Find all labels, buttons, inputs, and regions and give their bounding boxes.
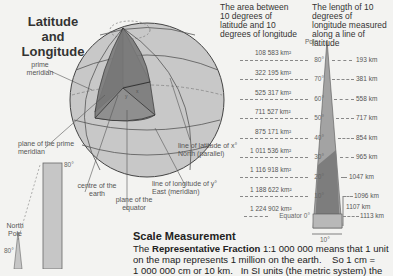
area-0: 1 224 902 km² [250,205,292,212]
scale-paragraph: The Representative Fraction 1:1 000 000 … [133,243,393,276]
length-column-header: The length of 10 degrees of longitude me… [312,3,388,48]
length-40: 854 km [356,134,377,141]
label-prime-meridian: prime meridian [20,61,60,77]
rdash-80 [332,60,352,61]
mini-north-pole: North Pole [4,222,26,238]
label-x: x [136,87,139,95]
label-line-of-latitude: line of latitude of x° North (parallel) [178,142,244,158]
rdash-0 [343,216,359,217]
rdash-70 [332,79,354,80]
scale-rf-term: Representative Fraction [152,243,260,254]
label-y: y [125,92,128,100]
dash-70 [240,79,308,80]
length-80: 193 km [356,56,377,63]
dash-30 [240,157,308,158]
length-50: 717 km [356,114,377,121]
scale-line3: 1 000 000 cm or 10 km. In SI units (the … [133,265,393,276]
area-20: 1 116 918 km² [250,166,291,173]
length-20: 1047 km [349,173,374,180]
scale-heading: Scale Measurement [133,230,236,242]
scale-line1: The Representative Fraction 1:1 000 000 … [133,243,393,254]
area-50: 711 527 km² [255,108,291,115]
dash-40 [240,138,308,139]
scale-line1-rest: 1:1 000 000 means that 1 unit [260,243,388,254]
label-line-of-longitude: line of longitude of y° East (meridian) [152,180,232,196]
pole-label: Pole [305,38,318,45]
lat-equator: Equator 0° [262,212,310,219]
rdash-30 [340,157,354,158]
label-plane-of-equator: plane of the equator [112,196,156,212]
meridian-length: 1107 km [346,203,370,210]
rdash-60 [334,99,354,100]
globe-title-line1: Latitude and [18,14,88,44]
dash-60 [240,99,308,100]
dash-0 [244,216,268,217]
area-80: 108 583 km² [255,49,291,56]
area-10: 1 188 622 km² [250,186,292,193]
area-40: 875 171 km² [255,128,291,135]
rdash-50 [336,118,354,119]
dash-20 [240,177,308,178]
area-30: 1 011 536 km² [250,147,291,154]
label-plane-prime-meridian: plane of the prime meridian [18,140,76,156]
length-30: 965 km [356,153,377,160]
dash-50 [240,118,308,119]
globe-title-line2: Longitude [18,44,88,59]
rdash-20 [341,177,347,178]
length-70: 381 km [356,75,377,82]
area-column-header: The area between 10 degrees of latitude … [220,3,300,39]
dash-80 [240,60,308,61]
scale-prefix: The [133,243,152,254]
rdash-10 [343,196,353,197]
length-10: 1096 km [354,192,379,199]
mini-80-left: 80° [4,247,14,254]
scale-line2: on the map represents 1 million on the e… [133,254,393,265]
area-70: 322 195 km² [255,69,291,76]
globe-title: Latitude and Longitude [18,14,88,59]
length-60: 558 km [356,95,377,102]
mini-80-top: 80° [64,161,74,168]
width-10-label: 10° [320,236,330,243]
area-60: 525 317 km² [255,89,291,96]
dash-10 [240,196,308,197]
rdash-40 [338,138,354,139]
length-0: 1113 km [360,212,384,219]
